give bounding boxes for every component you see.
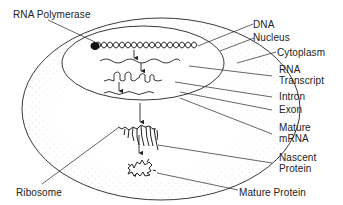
label-exon: Exon — [279, 104, 302, 115]
label-mature-protein: Mature Protein — [239, 187, 306, 198]
label-nucleus: Nucleus — [253, 32, 290, 43]
label-ribosome: Ribosome — [16, 187, 62, 198]
label-dna: DNA — [253, 19, 274, 30]
label-nascent-protein-line1: Nascent — [279, 152, 316, 163]
label-rna-transcript-line1: RNA — [279, 64, 300, 75]
label-intron: Intron — [279, 91, 305, 102]
label-mature-mrna-line2: mRNA — [279, 133, 309, 144]
cell-diagram — [0, 0, 343, 205]
label-cytoplasm: Cytoplasm — [277, 47, 325, 58]
label-rna-transcript-line2: Transcript — [279, 75, 324, 86]
label-nascent-protein-line2: Protein — [279, 163, 311, 174]
label-rna-polymerase: RNA Polymerase — [13, 9, 91, 20]
rna-polymerase-blob — [91, 42, 100, 50]
label-mature-mrna-line1: Mature — [279, 122, 311, 133]
